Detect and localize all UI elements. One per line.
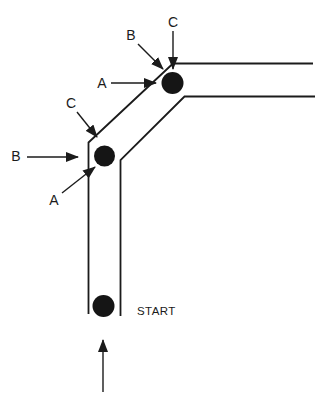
lower-label-a: A: [49, 192, 59, 208]
lower-label-c: C: [66, 95, 76, 111]
track-inner-wall: [121, 97, 316, 317]
figure-canvas: C B A C B A START: [0, 0, 328, 405]
lower-arrow-c: [77, 112, 97, 137]
track-outer-wall: [89, 64, 314, 315]
upper-label-b: B: [126, 27, 135, 43]
start-label: START: [137, 305, 176, 317]
track-figure: C B A C B A START: [0, 0, 328, 405]
ball-at-upper-corner: [162, 72, 184, 94]
upper-label-a: A: [97, 75, 107, 91]
upper-label-c: C: [168, 14, 178, 30]
upper-arrow-b: [138, 44, 163, 69]
ball-at-lower-corner: [94, 146, 115, 167]
ball-at-start: [93, 295, 115, 317]
lower-arrow-a: [62, 167, 95, 193]
lower-label-b: B: [11, 148, 20, 164]
